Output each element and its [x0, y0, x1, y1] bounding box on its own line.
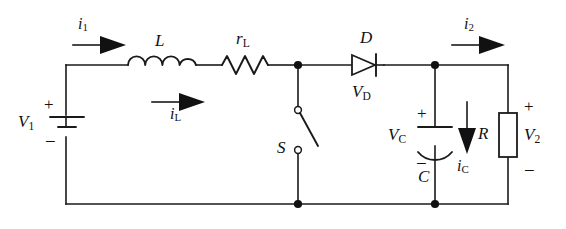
- resistor-rL-symbol: [222, 56, 268, 74]
- circuit-svg: [0, 0, 566, 229]
- label-current-i1: i1: [78, 16, 88, 33]
- node-dot-switch-bottom: [294, 200, 302, 208]
- sign-output-minus: −: [524, 161, 535, 180]
- label-current-iC: iC: [457, 158, 469, 175]
- current-arrow-i1: [73, 36, 126, 54]
- label-capacitor-C: C: [418, 168, 429, 185]
- node-dot-switch-top: [294, 61, 302, 69]
- label-resistor-R: R: [478, 125, 488, 142]
- sign-capacitor-plus: +: [417, 105, 427, 122]
- switch-blade: [300, 113, 318, 146]
- resistor-R-symbol: [499, 113, 517, 157]
- label-current-iL: iL: [170, 106, 181, 123]
- switch-symbol[interactable]: [295, 107, 318, 154]
- current-arrow-i2: [452, 36, 505, 54]
- label-current-i2: i2: [464, 16, 474, 33]
- boost-converter-schematic: V1 + − L rL S D VD VC + − C R V2 + − i1 …: [0, 0, 566, 229]
- current-arrow-iC: [458, 102, 476, 154]
- label-inductor-L: L: [155, 32, 164, 49]
- label-output-voltage-V2: V2: [524, 126, 540, 145]
- sign-output-plus: +: [524, 98, 534, 115]
- sign-source-plus: +: [44, 96, 54, 113]
- battery-symbol: [50, 117, 84, 127]
- diode-symbol: [352, 54, 384, 76]
- label-diode-D: D: [360, 29, 372, 46]
- label-capacitor-voltage-VC: VC: [388, 126, 406, 145]
- switch-terminal-bottom: [295, 147, 302, 154]
- label-resistor-rL: rL: [236, 30, 250, 49]
- label-switch-S: S: [277, 139, 286, 156]
- label-diode-voltage-VD: VD: [352, 83, 371, 102]
- node-dot-output-top: [431, 61, 439, 69]
- node-dot-output-bottom: [431, 200, 439, 208]
- label-source-V1: V1: [18, 113, 34, 132]
- sign-source-minus: −: [45, 132, 56, 151]
- inductor-symbol: [128, 56, 196, 65]
